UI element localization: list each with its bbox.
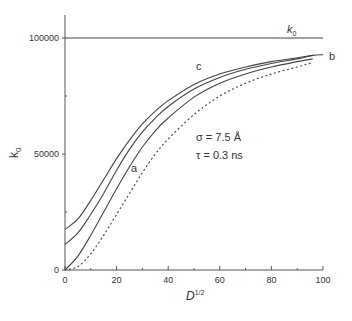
x-axis-label: D1/2 [186, 289, 205, 303]
sigma-annotation: σ = 7.5 Å [196, 131, 242, 143]
label-a: a [131, 162, 138, 174]
x-ticks: 020406080100 [62, 266, 330, 285]
axes [65, 15, 323, 270]
y-ticks: 050000100000 [29, 33, 67, 275]
y-tick-label: 100000 [29, 33, 59, 43]
label-b: b [329, 50, 335, 62]
x-tick-label: 100 [315, 275, 330, 285]
series-dotted-line [65, 62, 313, 270]
y-tick-label: 0 [54, 265, 59, 275]
series-lines [65, 38, 323, 270]
x-tick-label: 0 [62, 275, 67, 285]
tau-annotation: τ = 0.3 ns [196, 149, 243, 161]
series-c-line [65, 55, 313, 229]
y-axis-label: k0 [7, 147, 23, 158]
y-tick-label: 50000 [34, 149, 59, 159]
x-tick-label: 40 [163, 275, 173, 285]
x-tick-label: 60 [215, 275, 225, 285]
label-c: c [196, 60, 202, 72]
x-tick-label: 80 [266, 275, 276, 285]
chart-canvas: 020406080100 050000100000 k0 D1/2 k0 b c… [0, 0, 352, 321]
x-tick-label: 20 [112, 275, 122, 285]
k0-line-label: k0 [287, 23, 297, 37]
series-b-line [65, 55, 323, 245]
